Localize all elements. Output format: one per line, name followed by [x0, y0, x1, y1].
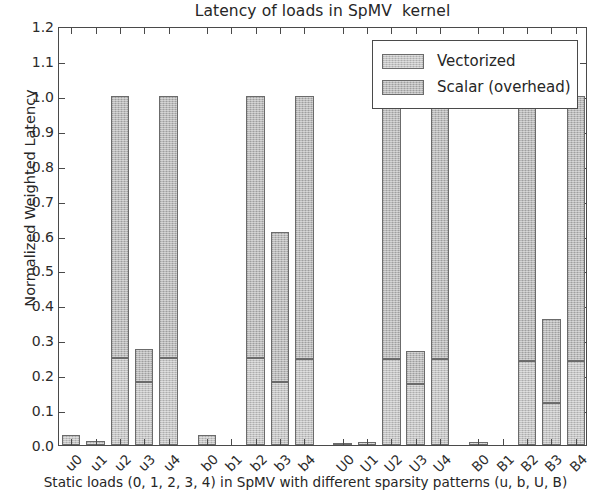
- x-axis-tick-mark: [256, 28, 257, 34]
- bar-segment-vectorized: [111, 358, 130, 445]
- chart-title: Latency of loads in SpMV kernel: [58, 2, 587, 20]
- x-axis-tick-mark: [304, 439, 305, 445]
- y-axis-tick-label: 0.5: [6, 263, 54, 279]
- bar-segment-vectorized: [567, 361, 586, 445]
- bar-segment-scalar-overhead: [246, 96, 265, 358]
- bar-segment-vectorized: [295, 359, 314, 445]
- x-axis-tick-mark: [231, 439, 232, 445]
- x-axis-tick-mark: [440, 439, 441, 445]
- bar-segment-vectorized: [271, 382, 290, 445]
- x-axis-tick-mark: [144, 28, 145, 34]
- x-axis-tick-mark: [96, 28, 97, 34]
- x-axis-tick-mark: [367, 439, 368, 445]
- bar-segment-scalar-overhead: [518, 96, 537, 361]
- x-axis-tick-mark: [416, 28, 417, 34]
- x-axis-tick-mark: [367, 28, 368, 34]
- y-axis-tick-label: 1.0: [6, 89, 54, 105]
- y-axis-tick-labels: 0.00.10.20.30.40.50.60.70.80.91.01.11.2: [0, 0, 54, 496]
- x-axis-tick-mark: [391, 439, 392, 445]
- y-axis-tick-label: 0.9: [6, 124, 54, 140]
- x-axis-tick-mark: [207, 439, 208, 445]
- x-axis-tick-mark: [120, 28, 121, 34]
- y-axis-tick-mark: [59, 272, 65, 273]
- x-axis-tick-mark: [576, 28, 577, 34]
- y-axis-tick-mark: [580, 63, 586, 64]
- y-axis-tick-label: 0.4: [6, 298, 54, 314]
- y-axis-tick-mark: [59, 238, 65, 239]
- y-axis-tick-label: 0.6: [6, 229, 54, 245]
- y-axis-tick-mark: [59, 412, 65, 413]
- x-axis-tick-mark: [527, 439, 528, 445]
- y-axis-tick-label: 1.1: [6, 54, 54, 70]
- x-axis-tick-mark: [503, 28, 504, 34]
- x-axis-tick-mark: [391, 28, 392, 34]
- x-axis-tick-mark: [280, 439, 281, 445]
- legend-item-scalar-overhead: Scalar (overhead): [382, 74, 568, 100]
- x-axis-tick-mark: [503, 439, 504, 445]
- legend-item-vectorized: Vectorized: [382, 48, 568, 74]
- bar-segment-scalar-overhead: [295, 96, 314, 360]
- y-axis-tick-mark: [59, 342, 65, 343]
- x-axis-tick-mark: [343, 28, 344, 34]
- x-axis-tick-mark: [304, 28, 305, 34]
- y-axis-tick-mark: [59, 203, 65, 204]
- y-axis-tick-mark: [59, 63, 65, 64]
- y-axis-tick-mark: [59, 307, 65, 308]
- x-axis-tick-mark: [120, 439, 121, 445]
- x-axis-tick-mark: [343, 439, 344, 445]
- x-axis-tick-mark: [71, 28, 72, 34]
- bar-segment-vectorized: [406, 384, 425, 445]
- x-axis-tick-mark: [280, 28, 281, 34]
- x-axis-tick-mark: [71, 439, 72, 445]
- chart-legend: Vectorized Scalar (overhead): [372, 40, 578, 109]
- y-axis-tick-label: 0.1: [6, 403, 54, 419]
- y-axis-tick-mark: [59, 168, 65, 169]
- bar-segment-scalar-overhead: [406, 351, 425, 384]
- bar-segment-vectorized: [518, 361, 537, 445]
- x-axis-tick-mark: [169, 439, 170, 445]
- x-axis-tick-mark: [144, 439, 145, 445]
- legend-label-vectorized: Vectorized: [437, 52, 516, 70]
- bar-segment-scalar-overhead: [111, 96, 130, 358]
- x-axis-tick-mark: [169, 28, 170, 34]
- bar-segment-vectorized: [431, 359, 450, 445]
- chart-figure: Latency of loads in SpMV kernel Normaliz…: [0, 0, 611, 496]
- bar-segment-scalar-overhead: [542, 319, 561, 403]
- y-axis-tick-label: 0.2: [6, 368, 54, 384]
- x-axis-tick-mark: [96, 439, 97, 445]
- bar-segment-vectorized: [246, 358, 265, 445]
- y-axis-tick-label: 0.7: [6, 194, 54, 210]
- y-axis-tick-label: 1.2: [6, 19, 54, 35]
- y-axis-tick-mark: [59, 98, 65, 99]
- bar-segment-vectorized: [382, 359, 401, 445]
- bar-segment-scalar-overhead: [567, 96, 586, 361]
- x-axis-tick-mark: [478, 439, 479, 445]
- x-axis-tick-mark: [416, 439, 417, 445]
- y-axis-tick-mark: [59, 133, 65, 134]
- x-axis-tick-mark: [256, 439, 257, 445]
- bar-segment-scalar-overhead: [271, 232, 290, 382]
- legend-swatch-scalar-overhead: [382, 80, 424, 95]
- x-axis-tick-mark: [551, 439, 552, 445]
- y-axis-tick-label: 0.8: [6, 159, 54, 175]
- bar-segment-scalar-overhead: [135, 349, 154, 382]
- y-axis-tick-label: 0.3: [6, 333, 54, 349]
- x-axis-tick-mark: [231, 28, 232, 34]
- bar-segment-scalar-overhead: [382, 96, 401, 360]
- bar-segment-vectorized: [159, 358, 178, 445]
- x-axis-tick-mark: [478, 28, 479, 34]
- bar-segment-scalar-overhead: [159, 96, 178, 358]
- bar-segment-scalar-overhead: [431, 96, 450, 360]
- bar-segment-vectorized: [135, 382, 154, 445]
- y-axis-tick-mark: [59, 377, 65, 378]
- legend-label-scalar-overhead: Scalar (overhead): [437, 78, 571, 96]
- x-axis-tick-mark: [440, 28, 441, 34]
- legend-swatch-vectorized: [382, 54, 424, 69]
- x-axis-tick-mark: [207, 28, 208, 34]
- x-axis-tick-mark: [576, 439, 577, 445]
- x-axis-tick-mark: [527, 28, 528, 34]
- x-axis-title: Static loads (0, 1, 2, 3, 4) in SpMV wit…: [0, 474, 611, 490]
- x-axis-tick-mark: [551, 28, 552, 34]
